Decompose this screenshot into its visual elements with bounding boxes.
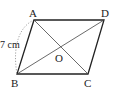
vertex-label-c: C [84,77,91,89]
vertex-label-a: A [29,7,37,19]
vertex-label-b: B [11,77,18,89]
vertex-label-d: D [101,7,109,19]
parallelogram-diagram: A D B C O 7 cm [0,0,117,102]
center-label-o: O [55,52,63,64]
measurement-label: 7 cm [0,39,20,50]
